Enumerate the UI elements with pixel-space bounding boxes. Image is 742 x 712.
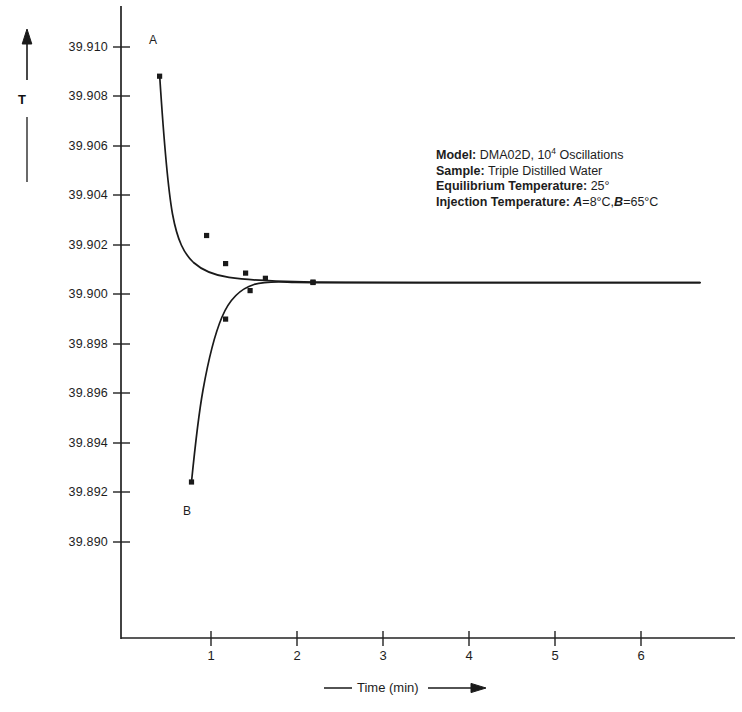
series-b-markers [189, 280, 316, 485]
data-point-marker [189, 479, 194, 484]
x-direction-arrow-icon [324, 683, 486, 692]
data-point-marker [248, 288, 253, 293]
data-point-marker [223, 317, 228, 322]
data-point-marker [223, 261, 228, 266]
data-point-marker [263, 276, 268, 281]
data-point-marker [243, 271, 248, 276]
data-point-marker [157, 74, 162, 79]
y-direction-arrow-icon [22, 29, 32, 80]
series-a-markers [157, 74, 316, 285]
data-point-marker [204, 233, 209, 238]
series-curve-b [192, 282, 701, 482]
series-curve-a [160, 76, 700, 282]
chart-figure: 39.910 39.908 39.906 39.904 39.902 39.90… [0, 0, 742, 712]
plot-canvas [0, 0, 742, 712]
data-point-marker [310, 280, 315, 285]
